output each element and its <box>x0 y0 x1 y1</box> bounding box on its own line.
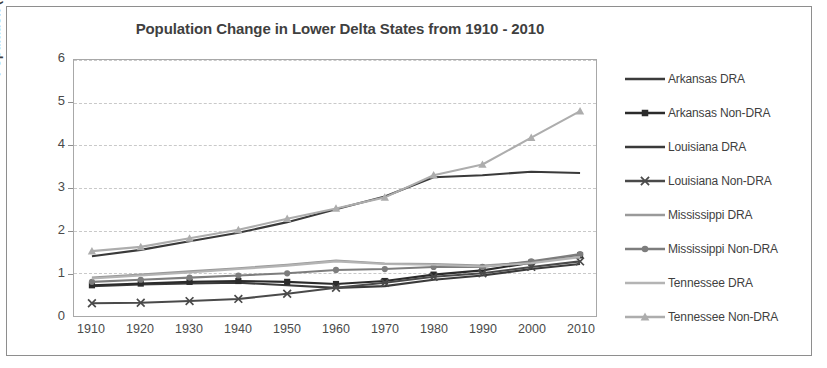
legend-label: Arkansas Non-DRA <box>666 106 770 120</box>
data-series <box>89 251 583 285</box>
chart-legend: Arkansas DRAArkansas Non-DRALouisiana DR… <box>624 62 820 334</box>
legend-swatch <box>624 174 666 188</box>
x-axis-tick-label: 1970 <box>360 322 410 336</box>
chart-screenshot: Population Change in Lower Delta States … <box>0 0 827 368</box>
series-marker <box>89 279 95 285</box>
x-axis-tick-label: 1930 <box>164 322 214 336</box>
legend-swatch <box>624 276 666 290</box>
legend-item[interactable]: Tennessee Non-DRA <box>624 300 820 334</box>
series-marker <box>382 266 388 272</box>
legend-item[interactable]: Louisiana Non-DRA <box>624 164 820 198</box>
legend-item[interactable]: Arkansas Non-DRA <box>624 96 820 130</box>
legend-swatch <box>624 106 666 120</box>
x-axis-tick-label: 1980 <box>409 322 459 336</box>
series-marker <box>333 267 339 273</box>
series-marker <box>138 277 144 283</box>
legend-label: Arkansas DRA <box>666 72 745 86</box>
y-axis-tick-label: 5 <box>37 93 65 108</box>
legend-label: Louisiana DRA <box>666 140 746 154</box>
legend-swatch <box>624 208 666 222</box>
y-axis-title: Population (Millions) <box>0 0 3 112</box>
x-axis-tick-label: 1920 <box>115 322 165 336</box>
legend-item[interactable]: Tennessee DRA <box>624 266 820 300</box>
chart-title: Population Change in Lower Delta States … <box>60 20 620 37</box>
series-marker <box>235 278 241 284</box>
data-series <box>88 107 584 254</box>
data-series-svg <box>74 60 596 316</box>
legend-swatch <box>624 242 666 256</box>
plot-area <box>73 59 597 317</box>
y-axis-tick-label: 2 <box>37 222 65 237</box>
legend-swatch <box>624 72 666 86</box>
series-marker <box>284 270 290 276</box>
legend-item[interactable]: Mississippi Non-DRA <box>624 232 820 266</box>
y-axis-tick-label: 6 <box>37 50 65 65</box>
legend-label: Mississippi DRA <box>666 208 752 222</box>
x-axis-tick-label: 2010 <box>556 322 606 336</box>
x-axis-tick-label: 1910 <box>66 322 116 336</box>
series-marker <box>284 279 290 285</box>
y-axis-tick-label: 3 <box>37 179 65 194</box>
y-axis-tick-label: 4 <box>37 136 65 151</box>
y-axis-tick-label: 0 <box>37 308 65 323</box>
x-axis-tick-label: 1950 <box>262 322 312 336</box>
x-axis-tick-label: 1940 <box>213 322 263 336</box>
x-axis-tick-label: 1990 <box>458 322 508 336</box>
series-marker <box>235 272 241 278</box>
legend-item[interactable]: Arkansas DRA <box>624 62 820 96</box>
legend-label: Tennessee DRA <box>666 276 753 290</box>
series-marker <box>186 275 192 281</box>
legend-label: Tennessee Non-DRA <box>666 310 778 324</box>
series-line <box>92 111 580 251</box>
series-marker <box>576 107 584 114</box>
legend-item[interactable]: Louisiana DRA <box>624 130 820 164</box>
legend-swatch <box>624 310 666 324</box>
legend-swatch <box>624 140 666 154</box>
x-axis-tick-label: 1960 <box>311 322 361 336</box>
series-marker <box>577 251 583 257</box>
legend-label: Louisiana Non-DRA <box>666 174 772 188</box>
y-axis-tick-label: 1 <box>37 265 65 280</box>
legend-item[interactable]: Mississippi DRA <box>624 198 820 232</box>
x-axis-tick-label: 2000 <box>507 322 557 336</box>
legend-label: Mississippi Non-DRA <box>666 242 778 256</box>
